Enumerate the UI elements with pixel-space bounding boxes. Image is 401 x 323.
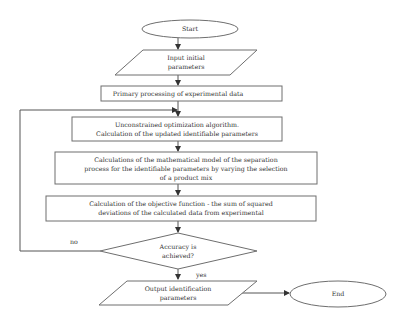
objective-label-line2: deviations of the calculated data from e… bbox=[98, 209, 263, 217]
model-label-line3: of a product mix bbox=[160, 174, 213, 182]
flowchart: Start Input initial parameters Primary p… bbox=[0, 0, 401, 323]
objective-label-line1: Calculation of the objective function - … bbox=[89, 200, 273, 208]
primary-label: Primary processing of experimental data bbox=[113, 90, 244, 98]
yes-label: yes bbox=[195, 271, 207, 279]
objective-node: Calculation of the objective function - … bbox=[46, 196, 316, 221]
end-node: End bbox=[290, 281, 386, 307]
optimization-node: Unconstrained optimization algorithm. Ca… bbox=[72, 117, 282, 141]
decision-label-line2: achieved? bbox=[162, 252, 194, 259]
input-node: Input initial parameters bbox=[115, 50, 257, 75]
input-label-line2: parameters bbox=[168, 63, 205, 71]
start-node: Start bbox=[142, 20, 238, 38]
input-label-line1: Input initial bbox=[167, 54, 205, 62]
start-label: Start bbox=[182, 25, 199, 32]
primary-processing-node: Primary processing of experimental data bbox=[101, 86, 282, 101]
model-node: Calculations of the mathematical model o… bbox=[55, 152, 317, 184]
model-label-line2: process for the identifiable parameters … bbox=[84, 165, 287, 173]
no-label: no bbox=[70, 238, 78, 245]
model-label-line1: Calculations of the mathematical model o… bbox=[94, 156, 277, 164]
output-node: Output identification parameters bbox=[99, 281, 257, 305]
output-label-line1: Output identification bbox=[145, 285, 212, 293]
end-label: End bbox=[332, 290, 345, 297]
optimization-label-line2: Calculation of the updated identifiable … bbox=[96, 130, 258, 138]
output-label-line2: parameters bbox=[160, 294, 197, 302]
optimization-label-line1: Unconstrained optimization algorithm. bbox=[115, 121, 239, 129]
decision-label-line1: Accuracy is bbox=[159, 243, 197, 251]
decision-node: Accuracy is achieved? bbox=[100, 233, 257, 269]
